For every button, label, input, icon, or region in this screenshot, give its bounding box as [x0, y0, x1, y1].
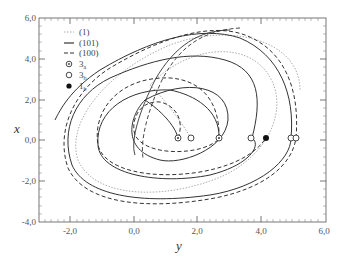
legend-3b-marker [66, 72, 72, 78]
y-tick-label: 0,0 [25, 135, 37, 145]
x-tick-label: 4,0 [255, 226, 267, 236]
legend-label: (1) [79, 27, 90, 37]
y-tick-label: -4,0 [22, 217, 37, 227]
curve-1-dotted [76, 35, 300, 192]
marker-3b [293, 135, 299, 141]
marker-3a-dot [177, 137, 179, 139]
legend-label: (100) [79, 48, 99, 58]
marker-1b [263, 135, 269, 141]
legend-label: 1b [79, 81, 87, 92]
markers [175, 135, 299, 141]
curve-inner-solid-stem [134, 30, 230, 155]
marker-3b [188, 135, 194, 141]
curve-100-dashed [64, 30, 297, 203]
x-axis-title: y [174, 238, 182, 253]
y-tick-label: 2,0 [25, 95, 37, 105]
legend: (1) (101) (100) 3a 3b 1b [64, 27, 99, 92]
marker-3a-dot [218, 137, 220, 139]
legend-1b-marker [66, 83, 71, 88]
y-tick-label: 6,0 [25, 13, 37, 23]
x-tick-label: -2,0 [63, 226, 78, 236]
marker-3b [248, 135, 254, 141]
phase-portrait-chart: -2,0 0,0 2,0 4,0 6,0 6,0 4,0 2,0 0,0 -2,… [0, 0, 346, 261]
y-tick-label: -2,0 [22, 176, 37, 186]
x-tick-label: 0,0 [128, 226, 140, 236]
legend-label: 3b [79, 70, 87, 81]
legend-label: 3a [79, 59, 87, 70]
y-axis-title: x [13, 121, 20, 136]
x-tick-label: 2,0 [191, 226, 203, 236]
legend-label: (101) [79, 38, 99, 48]
y-tick-label: 4,0 [25, 54, 37, 64]
curve-101-solid [55, 33, 292, 198]
legend-3a-marker-dot [68, 63, 70, 65]
x-tick-label: 6,0 [318, 226, 330, 236]
